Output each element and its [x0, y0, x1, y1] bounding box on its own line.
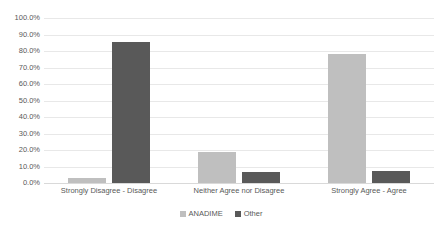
- legend-entry-anadime[interactable]: ANADIME: [180, 210, 223, 218]
- y-axis-tick-label: 80.0%: [0, 47, 40, 55]
- y-axis-tick-label: 0.0%: [0, 179, 40, 187]
- legend-label: ANADIME: [189, 210, 223, 218]
- bar-other: [372, 171, 410, 183]
- chart-legend: ANADIMEOther: [0, 210, 442, 218]
- y-axis-tick-label: 100.0%: [0, 14, 40, 22]
- y-axis: 100.0%90.0%80.0%70.0%60.0%50.0%40.0%30.0…: [0, 18, 40, 183]
- plot-area: [44, 18, 434, 183]
- bar-groups: [44, 18, 434, 183]
- legend-label: Other: [244, 210, 263, 218]
- bar-group: [174, 18, 304, 183]
- bar-group: [304, 18, 434, 183]
- y-axis-tick-label: 70.0%: [0, 64, 40, 72]
- bar-group: [44, 18, 174, 183]
- bar-other: [242, 172, 280, 183]
- legend-swatch-anadime: [180, 211, 186, 217]
- y-axis-tick-label: 50.0%: [0, 97, 40, 105]
- x-axis: Strongly Disagree - DisagreeNeither Agre…: [44, 186, 434, 195]
- bar-other: [112, 42, 150, 183]
- y-axis-tick-label: 90.0%: [0, 31, 40, 39]
- x-axis-category-label: Strongly Disagree - Disagree: [44, 186, 174, 195]
- y-axis-tick-label: 20.0%: [0, 146, 40, 154]
- legend-swatch-other: [235, 211, 241, 217]
- y-axis-tick-label: 30.0%: [0, 130, 40, 138]
- bar-anadime: [328, 54, 366, 183]
- bar-anadime: [68, 178, 106, 183]
- legend-entry-other[interactable]: Other: [235, 210, 263, 218]
- y-axis-tick-label: 60.0%: [0, 80, 40, 88]
- x-axis-category-label: Strongly Agree - Agree: [304, 186, 434, 195]
- y-axis-tick-label: 10.0%: [0, 163, 40, 171]
- bar-anadime: [198, 152, 236, 183]
- axis-baseline: [44, 183, 434, 184]
- bar-chart: 100.0%90.0%80.0%70.0%60.0%50.0%40.0%30.0…: [0, 0, 442, 234]
- y-axis-tick-label: 40.0%: [0, 113, 40, 121]
- x-axis-category-label: Neither Agree nor Disagree: [174, 186, 304, 195]
